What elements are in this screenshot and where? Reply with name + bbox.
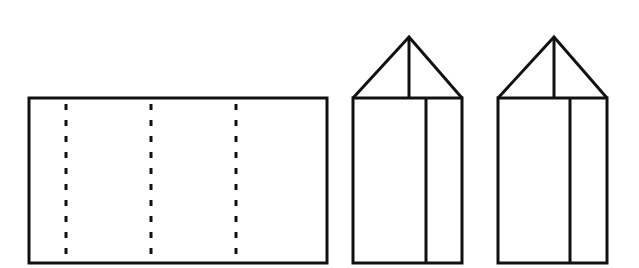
prism-body [353, 98, 462, 263]
net-outline [29, 98, 327, 263]
diagram-canvas [0, 0, 639, 268]
prism [498, 37, 607, 263]
prism [353, 37, 462, 263]
folded-prisms [353, 37, 607, 263]
prism-body [498, 98, 607, 263]
unfolded-net [29, 98, 327, 263]
